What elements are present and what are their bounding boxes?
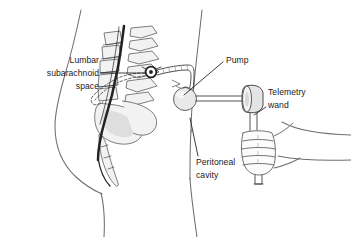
lumbar-label-line-1: Lumbar xyxy=(70,55,100,65)
back-body-contour xyxy=(55,10,102,194)
illustration-canvas: Lumbar subarachnoid space Pump Telemetry… xyxy=(0,0,351,237)
abdomen-contour xyxy=(191,10,202,132)
lumbar-label-line-3: space xyxy=(76,81,99,91)
finger-3 xyxy=(242,156,275,158)
clinician-hand xyxy=(242,123,301,184)
peritoneal-label-line-2: cavity xyxy=(196,170,219,180)
abdomen-lower-contour xyxy=(190,130,191,179)
medical-illustration-figure: Lumbar subarachnoid space Pump Telemetry… xyxy=(0,0,351,237)
leader-pump xyxy=(184,62,223,95)
spinous-process-l4 xyxy=(126,78,157,92)
leader-peritoneal xyxy=(190,118,198,156)
spinous-process-l1 xyxy=(129,38,158,51)
hand-fist xyxy=(242,131,276,175)
finger-2 xyxy=(242,148,275,150)
finger-1 xyxy=(243,140,273,142)
arm-forearm-contour xyxy=(278,156,351,160)
buttock-thigh-contour xyxy=(101,193,104,237)
spinous-processes xyxy=(125,26,159,105)
thumb xyxy=(274,123,293,136)
peritoneal-label-line-1: Peritoneal xyxy=(196,157,235,167)
groin-thigh-contour xyxy=(190,178,197,237)
telemetry-wand xyxy=(196,85,263,133)
telemetry-label-line-2: wand xyxy=(267,100,289,110)
spinous-process-t12 xyxy=(130,26,157,38)
lumbar-label-line-2: subarachnoid xyxy=(47,68,99,78)
finger-4 xyxy=(243,164,274,166)
telemetry-label-line-1: Telemetry xyxy=(268,87,306,97)
implanted-pump xyxy=(174,87,197,111)
pump-label-line-1: Pump xyxy=(226,55,249,65)
wrist-to-forearm xyxy=(274,158,300,168)
lumbar-spine xyxy=(95,26,159,186)
vertebral-body-l2 xyxy=(102,45,121,59)
vertebral-body-l1 xyxy=(104,31,122,45)
wand-tip xyxy=(255,175,262,184)
spinous-process-l2 xyxy=(128,51,159,64)
